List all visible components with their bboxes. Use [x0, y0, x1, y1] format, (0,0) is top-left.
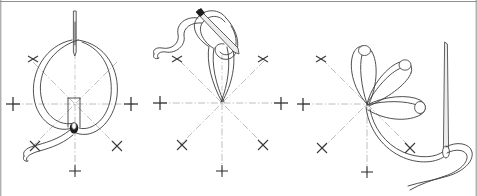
tail-upper	[153, 18, 198, 54]
anchor-eye	[72, 123, 77, 130]
panel-3-needle	[443, 42, 450, 158]
panel-3-ticks	[297, 56, 415, 178]
needle-shaft-icon	[196, 9, 239, 54]
panel-2-guide-star	[153, 55, 288, 177]
panel-3-thread-through-eye	[408, 144, 472, 190]
petal-3-mid	[367, 102, 417, 105]
panel-1-guide-star	[6, 44, 138, 177]
panel-2-needle	[196, 8, 239, 54]
tail-lower	[157, 23, 202, 58]
diagram-canvas: .thread { fill:none; stroke:#3c3c3c; str…	[0, 0, 477, 196]
tail-upper	[23, 130, 70, 156]
panel-1-ticks	[6, 56, 138, 177]
guide-ray-southeast	[367, 104, 412, 149]
panel-3-guide-star	[297, 56, 415, 178]
eye-thread-outer	[408, 144, 472, 186]
panel-2-cinch-loop	[194, 11, 237, 60]
needle-shaft-icon	[443, 42, 448, 158]
panel-1-thread-tail	[23, 130, 73, 161]
petal-3-bottom	[368, 110, 420, 119]
panel-3-petal-3	[367, 97, 425, 120]
panel-1	[6, 11, 138, 177]
petal-2-tip-loop	[399, 60, 411, 70]
panel-3-petal-2	[367, 60, 412, 106]
stitch-diagram-figure: .thread { fill:none; stroke:#3c3c3c; str…	[0, 0, 477, 196]
petal-3-tip-loop	[415, 102, 426, 114]
petal-1-right	[369, 52, 376, 104]
loop-inner-left	[40, 40, 78, 124]
loop-outer-left	[33, 40, 72, 129]
petal-1-tip-loop	[359, 46, 371, 56]
panel-2-ticks	[153, 56, 288, 177]
panel-1-needle	[73, 11, 76, 56]
loop-inner-right	[79, 42, 111, 129]
panel-3	[297, 42, 472, 190]
cinch-outer	[194, 11, 226, 46]
panel-2	[153, 8, 288, 177]
guide-ray-southwest	[322, 104, 367, 149]
